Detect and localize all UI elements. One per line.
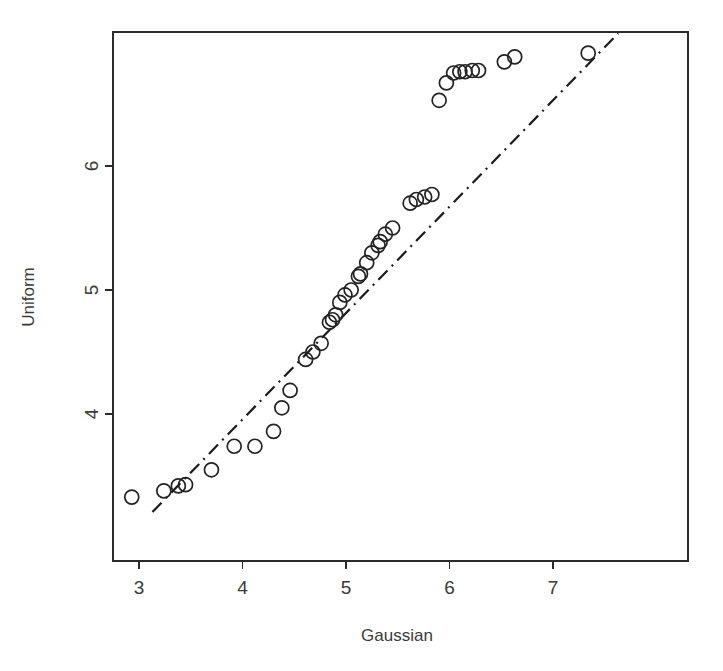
y-tick-label: 4 (81, 408, 102, 419)
data-point (283, 383, 297, 397)
data-point (227, 439, 241, 453)
scatter-points-group (125, 46, 595, 504)
reference-line-group (152, 33, 618, 512)
x-tick-label: 3 (134, 577, 145, 598)
data-point (204, 463, 218, 477)
x-tick-label: 7 (548, 577, 559, 598)
qq-plot-canvas: 34567 456 Gaussian Uniform (0, 0, 723, 671)
y-axis-title: Uniform (19, 267, 38, 327)
y-tick-label: 5 (81, 285, 102, 296)
data-point (326, 313, 340, 327)
x-axis-title: Gaussian (361, 626, 433, 645)
y-axis-ticks: 456 (81, 161, 114, 420)
plot-frame (113, 32, 688, 561)
data-point (581, 46, 595, 60)
qq-plot-figure: 34567 456 Gaussian Uniform (0, 0, 723, 671)
data-point (267, 424, 281, 438)
y-tick-label: 6 (81, 161, 102, 172)
data-point (432, 93, 446, 107)
data-point (157, 484, 171, 498)
reference-line (152, 33, 618, 512)
x-tick-label: 5 (341, 577, 352, 598)
data-point (248, 439, 262, 453)
x-tick-label: 6 (444, 577, 455, 598)
data-point (275, 401, 289, 415)
x-tick-label: 4 (237, 577, 248, 598)
x-axis-ticks: 34567 (134, 561, 559, 598)
data-point (125, 490, 139, 504)
data-point (439, 76, 453, 90)
